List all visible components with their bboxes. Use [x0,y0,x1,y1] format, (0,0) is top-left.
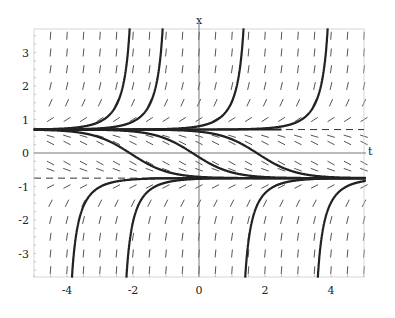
x-tick-label: 4 [328,284,335,297]
y-axis-label: x [196,14,203,27]
blowup-1 [34,28,130,129]
x-tick-label: 0 [196,284,203,297]
blowup-3 [34,28,244,129]
x-axis-label: t [368,145,373,158]
y-tick-label: -3 [18,248,29,261]
x-tick-label: 2 [262,284,269,297]
axes [34,23,366,277]
y-tick-label: -1 [18,181,29,194]
blowup-2 [34,28,163,129]
y-tick-label: -2 [18,214,29,227]
y-tick-label: 0 [22,147,29,160]
from-below-3 [245,178,366,277]
y-tick-label: 2 [22,80,29,93]
y-tick-label: 3 [22,47,29,60]
slope-field-chart: t x -4-2024-3-2-10123 [0,0,395,318]
from-below-4 [318,181,366,278]
from-below-1 [72,178,366,278]
x-tick-label: -4 [62,284,73,297]
y-tick-label: 1 [22,114,29,127]
blowup-4 [34,28,328,129]
x-tick-label: -2 [128,284,139,297]
tick-labels: -4-2024-3-2-10123 [18,47,334,298]
